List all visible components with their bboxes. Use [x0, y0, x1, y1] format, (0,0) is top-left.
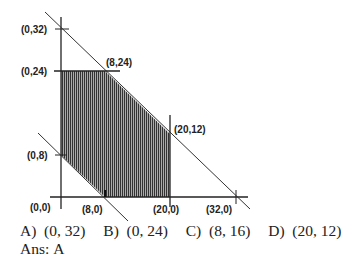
- label-0-8: (0,8): [27, 150, 48, 161]
- answer-label: Ans:: [20, 240, 49, 257]
- feasible-region: [61, 71, 170, 197]
- answer-options: A) (0, 32) B) (0, 24) C) (8, 16) D) (20,…: [20, 222, 355, 240]
- label-20-0: (20,0): [153, 204, 179, 215]
- label-0-24: (0,24): [21, 66, 47, 77]
- label-8-24: (8,24): [106, 57, 132, 68]
- answer-value: A: [53, 240, 64, 257]
- label-32-0: (32,0): [206, 204, 232, 215]
- option-a: A) (0, 32): [20, 222, 85, 239]
- option-c: C) (8, 16): [186, 222, 251, 239]
- label-8-0: (8,0): [82, 204, 103, 215]
- label-0-0: (0,0): [30, 202, 51, 213]
- option-d: D) (20, 12): [268, 222, 341, 239]
- label-20-12: (20,12): [174, 124, 206, 135]
- answer-line: Ans: A: [20, 240, 64, 258]
- label-0-32: (0,32): [21, 24, 47, 35]
- option-b: B) (0, 24): [103, 222, 168, 239]
